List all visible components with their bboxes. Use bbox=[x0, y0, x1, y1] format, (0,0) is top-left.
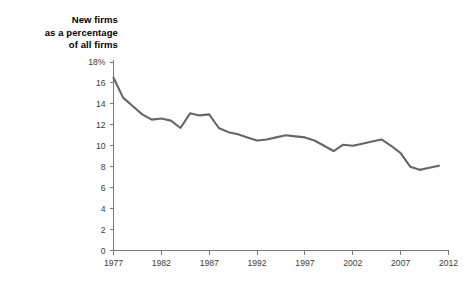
series-line-new-firms bbox=[114, 78, 439, 170]
chart-figure: New firms as a percentage of all firms 1… bbox=[0, 0, 474, 282]
x-tick-label: 1997 bbox=[295, 258, 314, 268]
y-tick-label: 4 bbox=[101, 204, 106, 214]
x-tick-label: 1987 bbox=[200, 258, 219, 268]
x-tick-label: 1982 bbox=[152, 258, 171, 268]
x-axis: 19771982198719921997200220072012 bbox=[104, 251, 458, 268]
y-tick-label: 10 bbox=[96, 141, 106, 151]
x-tick-label: 2012 bbox=[439, 258, 458, 268]
x-tick-label: 2007 bbox=[391, 258, 410, 268]
y-tick-label: 2 bbox=[101, 225, 106, 235]
y-tick-label: 0 bbox=[101, 246, 106, 256]
y-tick-label: 16 bbox=[96, 78, 106, 88]
y-tick-label: 14 bbox=[96, 99, 106, 109]
line-chart-plot: 18%1614121086420 19771982198719921997200… bbox=[0, 0, 474, 282]
y-tick-label: 6 bbox=[101, 183, 106, 193]
y-tick-label: 18% bbox=[88, 57, 106, 67]
x-tick-label: 1992 bbox=[248, 258, 267, 268]
y-tick-label: 12 bbox=[96, 120, 106, 130]
x-tick-label: 1977 bbox=[104, 258, 123, 268]
x-tick-label: 2002 bbox=[343, 258, 362, 268]
y-tick-label: 8 bbox=[101, 162, 106, 172]
y-axis: 18%1614121086420 bbox=[88, 57, 113, 256]
